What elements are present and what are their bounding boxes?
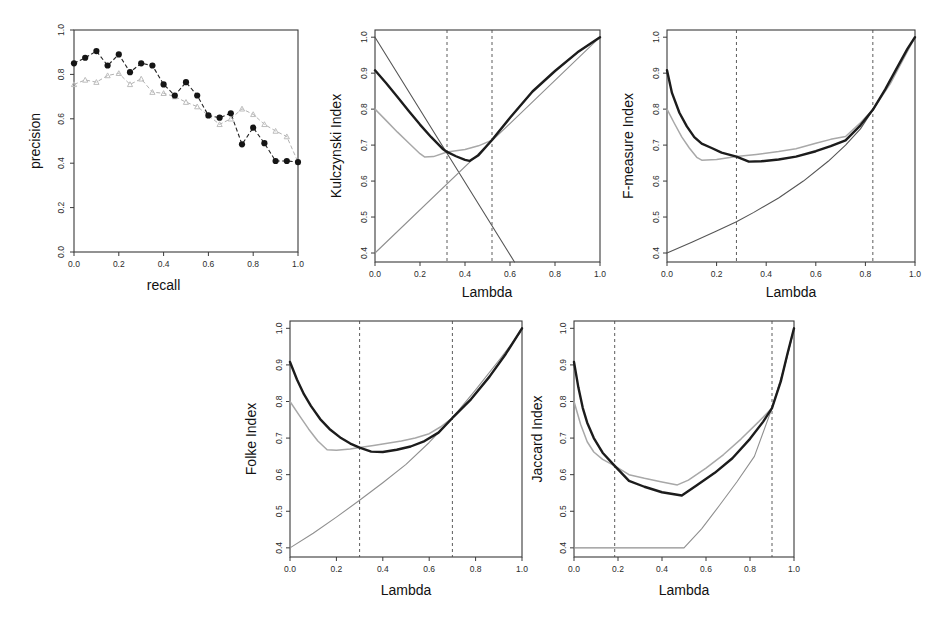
pr-circle-marker [116,51,122,57]
fo-ytick-0: 0.4 [274,542,284,554]
fm-xtick-5: 1.0 [909,269,921,279]
fm-xtick-0: 0.0 [661,269,673,279]
ja-ytick-1: 0.5 [558,505,568,517]
fo-xtick-2: 0.4 [377,564,389,574]
plot-frame [290,321,522,557]
fm-ytick-0: 0.4 [651,247,661,259]
kul-ytick-1: 0.5 [359,211,369,223]
pr-circle-marker [261,140,267,146]
series-rising-line [290,330,522,548]
pr-series-group [71,48,301,165]
fm-ytick-2: 0.6 [651,175,661,187]
pr-ylabel: precision [27,113,43,169]
fo-ylabel: Folke Index [243,403,259,475]
kulczynski-series-group [375,30,600,262]
ja-xtick-5: 1.0 [788,564,800,574]
pr-triangle-marker [83,77,88,82]
fo-xtick-0: 0.0 [284,564,296,574]
panel-jaccard: 0.40.50.60.70.80.91.0 0.00.20.40.60.81.0… [524,305,824,622]
fm-ytick-1: 0.5 [651,211,661,223]
pr-circle-marker [250,125,256,131]
pr-circle-marker [295,159,301,165]
kul-xtick-4: 0.8 [549,269,561,279]
fo-ytick-6: 1.0 [274,322,284,334]
ja-xtick-0: 0.0 [568,564,580,574]
fo-ytick-2: 0.6 [274,468,284,480]
fm-xtick-4: 0.8 [859,269,871,279]
y-axis-tick-labels: 0.40.50.60.70.80.91.0 [359,31,369,259]
kul-xtick-2: 0.4 [459,269,471,279]
panel-folke: 0.40.50.60.70.80.91.0 0.00.20.40.60.81.0… [232,305,552,622]
fm-xlabel: Lambda [766,284,817,300]
ja-ylabel: Jaccard Index [529,395,545,482]
ja-ytick-0: 0.4 [558,542,568,554]
ja-ytick-6: 1.0 [558,322,568,334]
x-axis-tick-labels: 0.00.20.40.60.81.0 [661,269,921,279]
pr-ytick-0: 0.0 [56,246,66,258]
y-axis-tick-labels: 0.40.50.60.70.80.91.0 [651,31,661,259]
x-axis-ticks [290,557,522,561]
pr-circle-marker [93,48,99,54]
pr-xtick-5: 1.0 [292,259,304,269]
pr-circle-marker [82,55,88,61]
fo-ytick-4: 0.8 [274,395,284,407]
folke-series-group [290,321,522,557]
ja-xtick-4: 0.8 [744,564,756,574]
x-axis-ticks [667,262,915,266]
series-black-thick-curve [290,328,522,452]
series-gray-curve [290,328,522,450]
pr-circle-marker [138,60,144,66]
precision-recall-chart: 0.0 0.2 0.4 0.6 0.8 1.0 0.0 0.2 0.4 0. [0,0,320,300]
pr-xtick-2: 0.4 [158,259,170,269]
kul-ytick-2: 0.6 [359,175,369,187]
panel-fmeasure: 0.40.50.60.70.80.91.0 0.00.20.40.60.81.0… [612,0,938,300]
pr-circle-marker [194,92,200,98]
x-axis-tick-labels: 0.00.20.40.60.81.0 [568,564,800,574]
ja-xtick-2: 0.4 [656,564,668,574]
series-black-thick-curve [667,37,915,161]
pr-circle-marker [228,110,234,116]
panel-precision-recall: 0.0 0.2 0.4 0.6 0.8 1.0 0.0 0.2 0.4 0. [0,0,320,300]
ja-xtick-1: 0.2 [612,564,624,574]
fo-ytick-3: 0.7 [274,432,284,444]
pr-xtick-1: 0.2 [113,259,125,269]
fmeasure-series-group [667,30,915,262]
pr-circle-marker [105,62,111,68]
x-axis-ticks [375,262,600,266]
fm-ylabel: F-measure Index [620,93,636,199]
pr-xlabel: recall [147,277,180,293]
fm-ytick-6: 1.0 [651,31,661,43]
pr-triangle-marker [105,73,110,78]
ja-ytick-3: 0.7 [558,432,568,444]
fo-xlabel: Lambda [381,582,432,598]
pr-circle-marker [183,79,189,85]
pr-ytick-3: 0.6 [56,113,66,125]
fo-xtick-3: 0.6 [423,564,435,574]
fm-xtick-3: 0.6 [810,269,822,279]
pr-circle-marker [172,92,178,98]
jaccard-series-group [574,321,794,557]
fm-ytick-3: 0.7 [651,139,661,151]
x-axis-tick-labels: 0.0 0.2 0.4 0.6 0.8 1.0 [68,259,304,269]
fm-ytick-4: 0.8 [651,103,661,115]
pr-xtick-3: 0.6 [202,259,214,269]
x-axis-ticks [574,557,794,561]
kul-ytick-3: 0.7 [359,139,369,151]
pr-circle-marker [205,112,211,118]
pr-circle-marker [161,81,167,87]
pr-ytick-4: 0.8 [56,68,66,80]
kul-xlabel: Lambda [462,284,513,300]
pr-gray-series-line [74,73,298,162]
pr-circle-marker [273,158,279,164]
panel-kulczynski: 0.40.50.60.70.80.91.0 0.00.20.40.60.81.0… [320,0,620,300]
pr-triangle-marker [195,104,200,109]
ja-ytick-5: 0.9 [558,359,568,371]
ja-xtick-3: 0.6 [700,564,712,574]
y-axis-tick-labels: 0.0 0.2 0.4 0.6 0.8 1.0 [56,24,66,258]
ja-xlabel: Lambda [659,582,710,598]
pr-circle-marker [217,115,223,121]
pr-circle-marker [149,62,155,68]
x-axis-tick-labels: 0.00.20.40.60.81.0 [284,564,528,574]
pr-xtick-4: 0.8 [247,259,259,269]
fo-ytick-5: 0.9 [274,359,284,371]
